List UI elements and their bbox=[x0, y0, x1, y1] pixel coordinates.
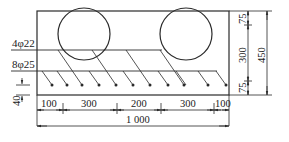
rebar-dots bbox=[51, 84, 228, 87]
dim-width-1: 100 bbox=[41, 98, 57, 109]
dim-width-5: 100 bbox=[215, 98, 231, 109]
dim-overall-height: 450 bbox=[256, 47, 267, 63]
top-bar-leaders bbox=[58, 50, 184, 85]
section-drawing: 4φ22 8φ25 40 75 300 75 450 bbox=[0, 0, 289, 142]
dim-width-4: 300 bbox=[180, 98, 196, 109]
dim-overall-width: 1 000 bbox=[126, 114, 150, 125]
bottom-bar-leaders bbox=[42, 71, 226, 85]
dim-width-2: 300 bbox=[81, 98, 97, 109]
dim-width-3: 200 bbox=[131, 98, 147, 109]
dim-vertical-top: 75 bbox=[237, 14, 248, 25]
label-top-bars: 4φ22 bbox=[12, 37, 35, 49]
label-bottom-bars: 8φ25 bbox=[12, 58, 35, 70]
void-circle-right bbox=[160, 8, 212, 60]
void-circle-left bbox=[58, 8, 110, 60]
dim-vertical-middle: 300 bbox=[237, 47, 248, 63]
dim-cover: 40 bbox=[11, 96, 22, 107]
dim-vertical-bottom: 75 bbox=[237, 83, 248, 94]
